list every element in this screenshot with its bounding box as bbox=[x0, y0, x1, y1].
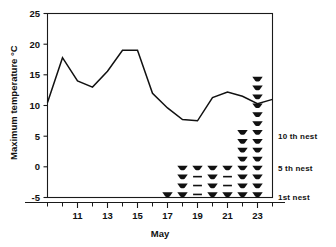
nest-symbol-filled bbox=[237, 157, 247, 162]
nest-symbol-filled bbox=[222, 192, 232, 197]
plot-frame bbox=[48, 14, 273, 198]
x-ticklabel-23: 23 bbox=[252, 210, 263, 221]
nest-annotations: 10 th nest 5 th nest 1st nest bbox=[278, 132, 317, 202]
temperature-line bbox=[48, 50, 273, 121]
x-axis-title: May bbox=[151, 228, 170, 239]
x-ticklabel-19: 19 bbox=[192, 210, 203, 221]
nest-symbol-filled bbox=[252, 95, 262, 100]
temperature-line-series bbox=[48, 50, 273, 121]
nest-column-day-20 bbox=[207, 166, 217, 197]
nest-column-day-17 bbox=[162, 192, 172, 197]
x-axis bbox=[25, 203, 285, 209]
nest-symbol-filled bbox=[207, 192, 217, 197]
nest-symbol-filled bbox=[222, 166, 232, 171]
nest-symbol-filled bbox=[207, 166, 217, 171]
y-ticklabel-15: 15 bbox=[29, 69, 40, 80]
nest-symbol-filled bbox=[252, 139, 262, 144]
nest-symbol-filled bbox=[252, 166, 262, 171]
temperature-nest-chart: 25 20 15 10 5 0 -5 Maximum temperature °… bbox=[0, 0, 336, 247]
y-axis-tick-labels: 25 20 15 10 5 0 -5 bbox=[29, 8, 40, 203]
nest-symbol-filled bbox=[252, 103, 262, 108]
nest-label-fifth: 5 th nest bbox=[278, 164, 313, 173]
nest-symbol-filled bbox=[207, 175, 217, 180]
nest-symbol-filled bbox=[237, 175, 247, 180]
nest-symbol-filled bbox=[177, 166, 187, 171]
x-ticklabel-21: 21 bbox=[222, 210, 233, 221]
nest-symbol-filled bbox=[237, 183, 247, 188]
y-ticklabel-20: 20 bbox=[29, 39, 40, 50]
y-ticklabel-0: 0 bbox=[35, 161, 40, 172]
nest-symbol-filled bbox=[252, 157, 262, 162]
nest-column-day-19 bbox=[192, 166, 202, 195]
nest-column-day-22 bbox=[237, 130, 247, 197]
nest-symbol-filled bbox=[252, 112, 262, 117]
y-axis-ticks bbox=[44, 14, 48, 198]
y-axis-title: Maximum temperature °C bbox=[8, 45, 19, 160]
nest-symbol-filled bbox=[162, 192, 172, 197]
nest-column-day-23 bbox=[252, 77, 262, 197]
x-ticklabel-11: 11 bbox=[72, 210, 83, 221]
nest-symbol-filled bbox=[177, 175, 187, 180]
nest-symbol-filled bbox=[237, 192, 247, 197]
nest-symbol-filled bbox=[252, 77, 262, 82]
nest-column-day-18 bbox=[177, 166, 187, 197]
y-ticklabel-10: 10 bbox=[29, 100, 40, 111]
x-ticklabel-15: 15 bbox=[132, 210, 143, 221]
nest-symbol-filled bbox=[177, 192, 187, 197]
nest-column-day-21 bbox=[222, 166, 232, 197]
nest-symbol-filled bbox=[252, 148, 262, 153]
nest-symbol-filled bbox=[237, 130, 247, 135]
nest-symbol-filled bbox=[237, 139, 247, 144]
nest-symbol-layer bbox=[162, 77, 262, 197]
nest-symbol-filled bbox=[252, 175, 262, 180]
nest-symbol-filled bbox=[237, 148, 247, 153]
nest-symbol-filled bbox=[192, 166, 202, 171]
y-ticklabel-25: 25 bbox=[29, 8, 40, 19]
nest-symbol-filled bbox=[207, 183, 217, 188]
nest-symbol-filled bbox=[252, 183, 262, 188]
x-axis-title-text: May bbox=[151, 228, 170, 239]
nest-symbol-filled bbox=[252, 192, 262, 197]
chart-figure: 25 20 15 10 5 0 -5 Maximum temperature °… bbox=[0, 0, 336, 247]
y-ticklabel-5: 5 bbox=[35, 131, 41, 142]
y-axis-title-text: Maximum temperature °C bbox=[8, 45, 19, 160]
nest-symbol-filled bbox=[252, 86, 262, 91]
nest-symbol-filled bbox=[237, 166, 247, 171]
nest-symbol-filled bbox=[252, 130, 262, 135]
x-ticklabel-17: 17 bbox=[162, 210, 173, 221]
nest-label-first: 1st nest bbox=[278, 193, 310, 202]
y-ticklabel-minus5: -5 bbox=[32, 192, 41, 203]
nest-symbol-filled bbox=[252, 121, 262, 126]
x-axis-tick-labels: 11 13 15 17 19 21 23 bbox=[72, 210, 262, 221]
nest-symbol-filled bbox=[177, 183, 187, 188]
x-ticklabel-13: 13 bbox=[102, 210, 113, 221]
nest-label-tenth: 10 th nest bbox=[278, 132, 317, 141]
